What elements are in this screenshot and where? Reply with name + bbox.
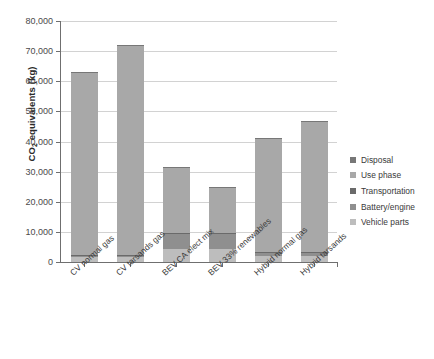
legend-swatch-icon [350,172,356,178]
plot-area: 010,00020,00030,00040,00050,00060,00070,… [60,21,337,263]
bar-group [61,21,337,262]
bar-segment [163,233,190,234]
legend-swatch-icon [350,219,356,225]
stacked-bar[interactable] [255,139,282,263]
legend-label: Disposal [361,155,393,165]
bar-slot [61,21,107,262]
y-axis-tick-label: 70,000 [25,46,53,56]
y-axis-tick [56,262,61,263]
legend-label: Use phase [361,170,401,180]
stacked-bar[interactable] [301,121,328,262]
legend-item[interactable]: Use phase [350,168,434,184]
legend-item[interactable]: Vehicle parts [350,214,434,230]
y-axis-tick-label: 0 [48,257,53,267]
stacked-bar[interactable] [71,73,98,262]
bar-segment [117,45,144,255]
legend-item[interactable]: Battery/engine [350,199,434,215]
y-axis-tick-label: 40,000 [25,137,53,147]
bar-segment [209,187,236,188]
y-axis-tick-label: 80,000 [25,16,53,26]
legend-label: Battery/engine [361,202,415,212]
legend-label: Transportation [361,186,415,196]
y-axis-tick-label: 50,000 [25,106,53,116]
bar-segment [163,167,190,168]
bar-segment [209,188,236,233]
chart-legend: DisposalUse phaseTransportationBattery/e… [350,152,434,230]
bar-segment [71,72,98,73]
legend-label: Vehicle parts [361,217,409,227]
y-axis-tick-label: 60,000 [25,76,53,86]
chart-figure: CO2 equivalents (kg) 010,00020,00030,000… [0,0,434,359]
x-axis-tick [337,262,338,267]
bar-segment [301,121,328,122]
bar-slot [199,21,245,262]
bar-slot [107,21,153,262]
legend-item[interactable]: Disposal [350,152,434,168]
y-axis-tick-label: 10,000 [25,227,53,237]
legend-swatch-icon [350,204,356,210]
bar-slot [153,21,199,262]
bar-slot [291,21,337,262]
stacked-bar[interactable] [117,45,144,262]
legend-swatch-icon [350,188,356,194]
bar-segment [117,45,144,46]
legend-swatch-icon [350,157,356,163]
legend-item[interactable]: Transportation [350,183,434,199]
bar-segment [71,73,98,255]
bar-segment [163,168,190,233]
y-axis-title-pre: CO [26,147,37,161]
bar-segment [255,138,282,139]
y-axis-tick-label: 30,000 [25,167,53,177]
y-axis-tick-label: 20,000 [25,197,53,207]
